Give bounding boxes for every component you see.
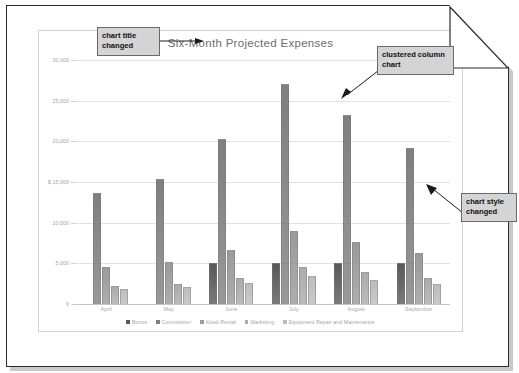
legend-swatch-icon: [156, 320, 160, 324]
bar[interactable]: [397, 263, 405, 304]
bar[interactable]: [299, 267, 307, 304]
y-axis-label: 25,000: [53, 98, 69, 104]
annotation-line-1: chart title: [102, 31, 155, 41]
chart-container[interactable]: Six-Month Projected Expenses 30,00025,00…: [38, 30, 463, 332]
bar-cluster-july: [263, 60, 326, 304]
bar[interactable]: [308, 276, 316, 304]
legend-swatch-icon: [200, 320, 204, 324]
bar[interactable]: [165, 262, 173, 304]
bar[interactable]: [218, 139, 226, 304]
bar[interactable]: [209, 263, 217, 304]
bar[interactable]: [424, 278, 432, 304]
bar-cluster-june: [200, 60, 263, 304]
y-axis-label: 5,000: [56, 260, 69, 266]
legend-swatch-icon: [283, 320, 287, 324]
bar[interactable]: [334, 263, 342, 304]
bar[interactable]: [227, 250, 235, 304]
bar[interactable]: [111, 286, 119, 304]
annotation-clustered-column-chart: clustered column chart: [377, 46, 454, 75]
y-axis-tick: [71, 304, 75, 305]
annotation-line-1: chart style: [466, 197, 512, 207]
bar[interactable]: [156, 179, 164, 304]
legend-item[interactable]: Commission: [156, 319, 191, 325]
bar[interactable]: [281, 84, 289, 304]
y-axis-label: 30,000: [53, 57, 69, 63]
bar[interactable]: [433, 284, 441, 304]
plot-area: 30,00025,00020,000$ 15,00010,0005,0000: [75, 60, 450, 304]
legend-item[interactable]: Marketing: [245, 319, 274, 325]
legend-label: Marketing: [250, 319, 274, 325]
x-axis-label-september: September: [388, 306, 451, 312]
bar[interactable]: [406, 148, 414, 304]
bar[interactable]: [245, 283, 253, 304]
chart-legend[interactable]: BonusCommissionKiosk RentalMarketingEqui…: [39, 319, 462, 325]
bar[interactable]: [102, 267, 110, 304]
bar[interactable]: [272, 263, 280, 304]
bar[interactable]: [174, 284, 182, 304]
gridline: 0: [75, 304, 450, 305]
annotation-chart-style-changed: chart style changed: [461, 193, 517, 222]
legend-label: Kiosk Rental: [206, 319, 236, 325]
legend-swatch-icon: [126, 320, 130, 324]
page-fold-corner-icon: [449, 6, 509, 69]
bar[interactable]: [352, 242, 360, 304]
bar[interactable]: [290, 231, 298, 304]
bar[interactable]: [361, 272, 369, 304]
legend-label: Bonus: [132, 319, 147, 325]
annotation-line-2: changed: [466, 207, 512, 217]
x-axis-label-july: July: [263, 306, 326, 312]
bar[interactable]: [93, 193, 101, 304]
legend-item[interactable]: Kiosk Rental: [200, 319, 236, 325]
legend-item[interactable]: Equipment Repair and Maintenance: [283, 319, 374, 325]
bar[interactable]: [183, 287, 191, 304]
annotation-line-1: clustered column: [382, 50, 449, 60]
bar[interactable]: [120, 289, 128, 304]
legend-swatch-icon: [245, 320, 249, 324]
x-axis-label-april: April: [75, 306, 138, 312]
y-axis-label: $ 15,000: [48, 179, 69, 185]
bar-cluster-april: [75, 60, 138, 304]
bar[interactable]: [236, 278, 244, 304]
legend-label: Commission: [162, 319, 192, 325]
bar[interactable]: [415, 253, 423, 304]
bar-clusters: [75, 60, 450, 304]
x-axis-labels: AprilMayJuneJulyAugustSeptember: [75, 306, 450, 312]
annotation-line-2: chart: [382, 60, 449, 70]
leader-line-title: [155, 36, 205, 46]
x-axis-label-may: May: [138, 306, 201, 312]
legend-label: Equipment Repair and Maintenance: [289, 319, 375, 325]
bar-cluster-september: [388, 60, 451, 304]
bar[interactable]: [370, 280, 378, 304]
y-axis-label: 20,000: [53, 138, 69, 144]
x-axis-label-august: August: [325, 306, 388, 312]
x-axis-label-june: June: [200, 306, 263, 312]
y-axis-label: 10,000: [53, 220, 69, 226]
bar[interactable]: [343, 115, 351, 305]
y-axis-label: 0: [66, 301, 69, 307]
annotation-line-2: changed: [102, 41, 155, 51]
annotation-chart-title-changed: chart title changed: [97, 27, 160, 56]
legend-item[interactable]: Bonus: [126, 319, 147, 325]
bar-cluster-may: [138, 60, 201, 304]
